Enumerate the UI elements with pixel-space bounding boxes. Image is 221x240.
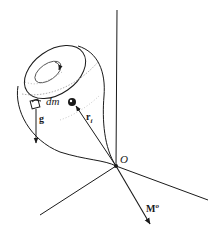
position-vector-arrow [76,106,116,166]
rigid-body [15,34,116,166]
origin-point [114,164,118,168]
mass-element [30,99,41,109]
rotation-arrow [55,62,60,70]
position-vector-label: ri [86,112,92,125]
right-axis [116,166,208,200]
particle-dot [68,98,76,106]
vertical-axis [116,10,117,166]
diagram-svg [0,0,221,240]
moment-vector-arrow [116,166,150,224]
body-left-outline [17,86,116,166]
shading-line-1 [22,62,98,95]
shading-line-2 [25,72,62,84]
diagram-canvas: dm g ri O Mo [0,0,221,240]
shading-line-3 [60,95,100,120]
dm-label: dm [46,96,59,107]
position-vector-subscript: i [90,117,92,125]
inner-swirl [31,57,65,87]
gravity-label: g [39,114,44,124]
lower-left-axis [40,166,116,215]
body-right-outline [78,46,116,166]
moment-superscript: o [155,202,159,210]
moment-label: Mo [146,203,159,214]
coordinate-axes [40,10,208,215]
origin-label: O [120,154,128,165]
